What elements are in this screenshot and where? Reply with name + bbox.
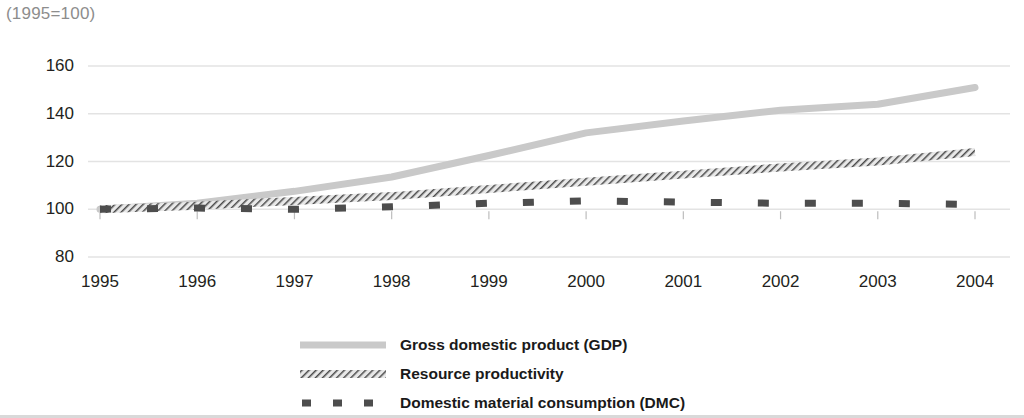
- legend-item-gdp[interactable]: Gross domestic product (GDP): [300, 330, 1000, 359]
- hatched-line-swatch: [300, 364, 386, 384]
- chart-x-axis-ticks: [100, 211, 975, 219]
- y-axis-tick-label: 100: [12, 199, 74, 219]
- legend-item-dmc[interactable]: Domestic material consumption (DMC): [300, 388, 1000, 417]
- x-axis-tick-label: 1995: [60, 272, 140, 292]
- y-axis-tick-label: 160: [12, 56, 74, 76]
- chart-container: (1995=100) 80100120140160 19951996199719…: [0, 0, 1024, 418]
- x-axis-tick-label: 1996: [157, 272, 237, 292]
- x-axis-tick-label: 2003: [838, 272, 918, 292]
- x-axis-tick-label: 1999: [449, 272, 529, 292]
- chart-series-layer: [100, 87, 975, 209]
- x-axis-tick-label: 1997: [254, 272, 334, 292]
- legend-label-gdp: Gross domestic product (GDP): [400, 336, 627, 354]
- x-axis-tick-label: 1998: [352, 272, 432, 292]
- x-axis-tick-label: 2002: [741, 272, 821, 292]
- legend-item-resource-productivity[interactable]: Resource productivity: [300, 359, 1000, 388]
- solid-line-swatch: [300, 335, 386, 355]
- x-axis-tick-label: 2001: [643, 272, 723, 292]
- x-axis-tick-label: 2004: [935, 272, 1015, 292]
- y-axis-tick-label: 80: [12, 247, 74, 267]
- legend-label-resource-productivity: Resource productivity: [400, 365, 564, 383]
- series-line-gdp: [100, 87, 975, 209]
- y-axis-tick-label: 140: [12, 104, 74, 124]
- chart-legend: Gross domestic product (GDP) Resource pr…: [300, 330, 1000, 417]
- legend-label-dmc: Domestic material consumption (DMC): [400, 394, 685, 412]
- series-line-resource-productivity: [100, 152, 975, 209]
- x-axis-tick-label: 2000: [546, 272, 626, 292]
- dashed-line-swatch: [300, 393, 386, 413]
- y-axis-tick-label: 120: [12, 152, 74, 172]
